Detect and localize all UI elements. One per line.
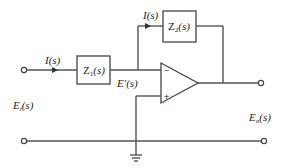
inverting-input-sign: − — [164, 65, 169, 75]
noninverting-input-sign: + — [164, 92, 169, 102]
ground-icon — [130, 155, 142, 161]
z1-label: Z1(s) — [83, 64, 105, 78]
circuit-diagram: Z1(s) Z2(s) − + I(s) I(s) E′(s) Ei(s) Eo… — [0, 0, 286, 168]
node-voltage-label: E′(s) — [116, 77, 138, 90]
output-terminal-bottom — [261, 138, 266, 143]
feedback-current-label: I(s) — [142, 9, 159, 22]
output-voltage-label: Eo(s) — [248, 111, 271, 125]
z2-label: Z2(s) — [168, 20, 190, 34]
input-current-label: I(s) — [44, 54, 61, 67]
output-terminal-top — [258, 80, 263, 85]
input-voltage-label: Ei(s) — [12, 99, 34, 113]
input-terminal-top — [21, 67, 26, 72]
input-terminal-bottom — [21, 138, 26, 143]
current-arrow-input-icon — [52, 67, 58, 73]
current-arrow-feedback-icon — [145, 23, 151, 29]
input-wire — [27, 67, 77, 73]
